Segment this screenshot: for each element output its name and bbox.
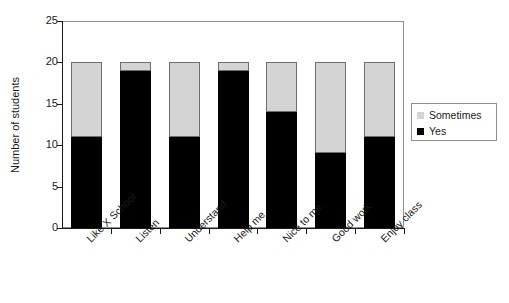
y-axis-title: Number of students bbox=[6, 21, 24, 228]
x-axis-tick-mark bbox=[160, 229, 161, 234]
bar-group[interactable] bbox=[218, 21, 249, 228]
y-axis-tick-labels: 0510152025 bbox=[28, 0, 58, 303]
legend-swatch-icon bbox=[417, 128, 424, 135]
bar-segment-sometimes[interactable] bbox=[266, 62, 297, 112]
x-axis-tick-mark bbox=[306, 229, 307, 234]
stacked-bar-chart: Number of students 0510152025 Like X Sch… bbox=[0, 0, 509, 303]
bar-segment-sometimes[interactable] bbox=[169, 62, 200, 137]
bar-segment-yes[interactable] bbox=[169, 137, 200, 228]
x-axis-tick-mark bbox=[355, 229, 356, 234]
x-axis-tick-mark bbox=[209, 229, 210, 234]
legend: SometimesYes bbox=[411, 103, 497, 141]
y-axis-tick-label: 5 bbox=[32, 180, 58, 192]
bar-segment-yes[interactable] bbox=[364, 137, 395, 228]
x-axis-tick-mark bbox=[404, 229, 405, 234]
legend-entry[interactable]: Sometimes bbox=[417, 108, 496, 123]
bar-group[interactable] bbox=[266, 21, 297, 228]
bar-group[interactable] bbox=[315, 21, 346, 228]
y-axis-tick-label: 25 bbox=[32, 14, 58, 26]
y-axis-tick-label: 10 bbox=[32, 138, 58, 150]
bar-segment-sometimes[interactable] bbox=[364, 62, 395, 137]
legend-label: Yes bbox=[429, 126, 446, 137]
bar-segment-sometimes[interactable] bbox=[120, 62, 151, 70]
bar-segment-yes[interactable] bbox=[71, 137, 102, 228]
y-axis-title-text: Number of students bbox=[9, 77, 21, 173]
bar-segment-yes[interactable] bbox=[315, 153, 346, 228]
bar-group[interactable] bbox=[71, 21, 102, 228]
y-axis-tick-label: 0 bbox=[32, 221, 58, 233]
bar-group[interactable] bbox=[364, 21, 395, 228]
bar-segment-yes[interactable] bbox=[266, 112, 297, 228]
bar-group[interactable] bbox=[169, 21, 200, 228]
bar-segment-sometimes[interactable] bbox=[315, 62, 346, 153]
y-axis-tick-label: 15 bbox=[32, 97, 58, 109]
bars-layer bbox=[62, 21, 404, 228]
legend-swatch-icon bbox=[417, 112, 424, 119]
x-axis-tick-mark bbox=[257, 229, 258, 234]
legend-label: Sometimes bbox=[429, 110, 482, 121]
x-axis-tick-mark bbox=[111, 229, 112, 234]
bar-segment-sometimes[interactable] bbox=[218, 62, 249, 70]
y-axis-tick-label: 20 bbox=[32, 55, 58, 67]
legend-entry[interactable]: Yes bbox=[417, 124, 496, 139]
bar-segment-sometimes[interactable] bbox=[71, 62, 102, 137]
